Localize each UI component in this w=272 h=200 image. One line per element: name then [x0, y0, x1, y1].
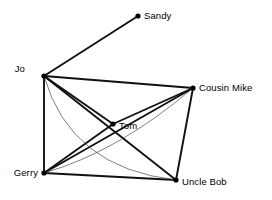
graph-node-uncle_bob[interactable] — [173, 177, 178, 182]
node-label-uncle_bob: Uncle Bob — [182, 177, 227, 187]
graph-node-jo[interactable] — [41, 73, 46, 78]
graph-node-cousin_mike[interactable] — [190, 85, 195, 90]
node-label-gerry: Gerry — [14, 168, 38, 178]
graph-edge-jo-sandy — [44, 16, 138, 76]
graph-edge-jo-uncle-bob — [44, 76, 176, 180]
graph-edge-gerry-uncle-bob — [44, 173, 176, 180]
node-label-tom: Tom — [119, 121, 137, 131]
graph-node-tom[interactable] — [110, 121, 115, 126]
graph-node-gerry[interactable] — [41, 170, 46, 175]
graph-node-sandy[interactable] — [135, 13, 140, 18]
node-label-sandy: Sandy — [144, 11, 171, 21]
graph-edge-gerry-tom — [44, 124, 113, 173]
graph-canvas: SandyJoCousin MikeTomGerryUncle Bob — [0, 0, 272, 200]
graph-edge-jo-cousin-mike — [44, 76, 193, 88]
node-label-jo: Jo — [15, 64, 25, 74]
graph-svg — [0, 0, 272, 200]
graph-edge-cousin-mike-uncle-bob — [176, 88, 193, 180]
edge-layer — [44, 16, 193, 180]
graph-edge-tom-cousin-mike — [113, 88, 193, 124]
node-label-cousin_mike: Cousin Mike — [199, 83, 252, 93]
